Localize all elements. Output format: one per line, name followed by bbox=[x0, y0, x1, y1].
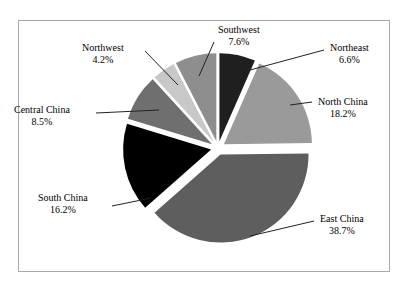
slice-label-east-china: East China38.7% bbox=[320, 213, 364, 236]
slice-label-value-northeast: 6.6% bbox=[330, 54, 369, 66]
slice-label-south-china: South China16.2% bbox=[38, 192, 88, 215]
slice-label-value-south-china: 16.2% bbox=[38, 204, 88, 216]
slice-label-name-northeast: Northeast bbox=[330, 42, 369, 54]
pie-chart-figure: Northeast6.6%North China18.2%East China3… bbox=[0, 0, 414, 291]
slice-label-name-southwest: Southwest bbox=[218, 24, 260, 36]
slice-label-name-north-china: North China bbox=[318, 96, 368, 108]
slice-label-north-china: North China18.2% bbox=[318, 96, 368, 119]
slice-label-value-north-china: 18.2% bbox=[318, 108, 368, 120]
slice-label-central-china: Central China8.5% bbox=[14, 104, 70, 127]
slice-label-name-east-china: East China bbox=[320, 213, 364, 225]
slice-label-northwest: Northwest4.2% bbox=[82, 42, 124, 65]
slice-label-name-central-china: Central China bbox=[14, 104, 70, 116]
slice-label-southwest: Southwest7.6% bbox=[218, 24, 260, 47]
slice-label-value-east-china: 38.7% bbox=[320, 225, 364, 237]
slice-label-name-south-china: South China bbox=[38, 192, 88, 204]
slice-label-northeast: Northeast6.6% bbox=[330, 42, 369, 65]
slice-label-value-central-china: 8.5% bbox=[14, 116, 70, 128]
slice-label-value-southwest: 7.6% bbox=[218, 36, 260, 48]
pie-slices-group bbox=[123, 53, 312, 242]
slice-label-name-northwest: Northwest bbox=[82, 42, 124, 54]
slice-label-value-northwest: 4.2% bbox=[82, 54, 124, 66]
